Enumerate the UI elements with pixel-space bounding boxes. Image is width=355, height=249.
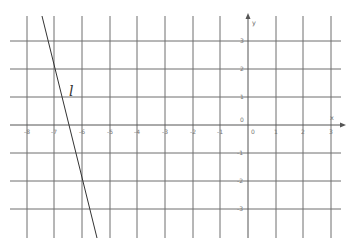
svg-text:-4: -4 (134, 128, 140, 135)
svg-text:0: 0 (240, 116, 244, 123)
svg-text:-2: -2 (190, 128, 196, 135)
coordinate-plane: x y -8 -7 -6 -5 -4 -3 -2 -1 0 1 2 3 3 2 … (0, 0, 355, 249)
vertical-gridlines (27, 16, 331, 238)
svg-text:-2: -2 (237, 177, 243, 184)
svg-text:3: 3 (240, 37, 244, 44)
svg-text:1: 1 (240, 93, 244, 100)
x-axis-arrow-icon (340, 123, 346, 128)
svg-text:-1: -1 (217, 128, 223, 135)
svg-text:0: 0 (251, 128, 255, 135)
svg-text:2: 2 (301, 128, 305, 135)
svg-text:1: 1 (274, 128, 278, 135)
svg-text:2: 2 (240, 65, 244, 72)
svg-text:-6: -6 (79, 128, 85, 135)
svg-text:-5: -5 (107, 128, 113, 135)
y-axis-label: y (252, 19, 256, 27)
line-l (42, 16, 97, 238)
svg-text:-3: -3 (237, 205, 243, 212)
x-axis-label: x (330, 114, 334, 122)
line-l-label: l (69, 83, 73, 99)
svg-text:-8: -8 (24, 128, 30, 135)
svg-text:-3: -3 (162, 128, 168, 135)
y-axis-arrow-icon (246, 13, 251, 19)
svg-text:-1: -1 (237, 149, 243, 156)
svg-text:-7: -7 (51, 128, 57, 135)
svg-text:3: 3 (329, 128, 333, 135)
